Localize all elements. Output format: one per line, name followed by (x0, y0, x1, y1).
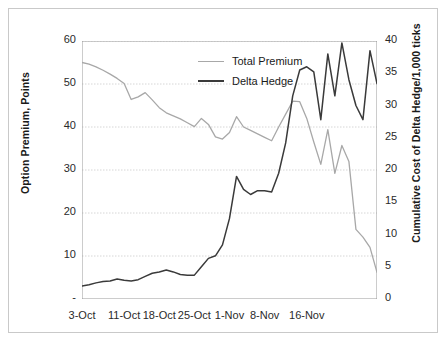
legend-item: Total Premium (198, 51, 302, 71)
y-axis-right-tick-label: 10 (385, 227, 409, 239)
y-axis-left-title: Option Premium, Points (19, 4, 31, 262)
legend-swatch-icon (198, 80, 224, 82)
y-axis-right-ticks: 0510152025303540 (385, 41, 409, 299)
y-axis-left-tick-label: 50 (52, 76, 76, 88)
y-axis-right-tick-label: 20 (385, 162, 409, 174)
y-axis-left-ticks: -102030405060 (52, 41, 76, 299)
chart-figure: Option Premium, Points Cumulative Cost o… (0, 0, 448, 349)
legend-swatch-icon (198, 61, 224, 62)
y-axis-left-tick-label: 20 (52, 205, 76, 217)
y-axis-left-tick-label: 10 (52, 248, 76, 260)
series-line-total-premium (82, 63, 377, 273)
legend-item-label: Total Premium (232, 55, 302, 67)
y-axis-right-tick-label: 35 (385, 65, 409, 77)
y-axis-left-tick-label: 30 (52, 162, 76, 174)
y-axis-right-tick-label: 5 (385, 259, 409, 271)
y-axis-right-tick-label: 0 (385, 291, 409, 303)
x-axis-tick-label: 16-Nov (279, 309, 335, 321)
y-axis-left-tick-label: 60 (52, 33, 76, 45)
y-axis-right-tick-label: 40 (385, 33, 409, 45)
x-axis-ticks: 3-Oct11-Oct18-Oct25-Oct1-Nov8-Nov16-Nov (82, 303, 377, 329)
plot-area: -102030405060 0510152025303540 3-Oct11-O… (82, 41, 377, 299)
y-axis-left-tick-label: - (52, 291, 76, 303)
y-axis-right-tick-label: 15 (385, 194, 409, 206)
legend-item: Delta Hedge (198, 71, 302, 91)
y-axis-right-tick-label: 25 (385, 130, 409, 142)
chart-legend: Total PremiumDelta Hedge (198, 51, 302, 91)
figure-frame: Option Premium, Points Cumulative Cost o… (8, 8, 438, 333)
y-axis-left-tick-label: 40 (52, 119, 76, 131)
legend-item-label: Delta Hedge (232, 75, 293, 87)
y-axis-right-title: Cumulative Cost of Delta Hedge/1,000 tic… (410, 4, 422, 262)
y-axis-right-tick-label: 30 (385, 98, 409, 110)
